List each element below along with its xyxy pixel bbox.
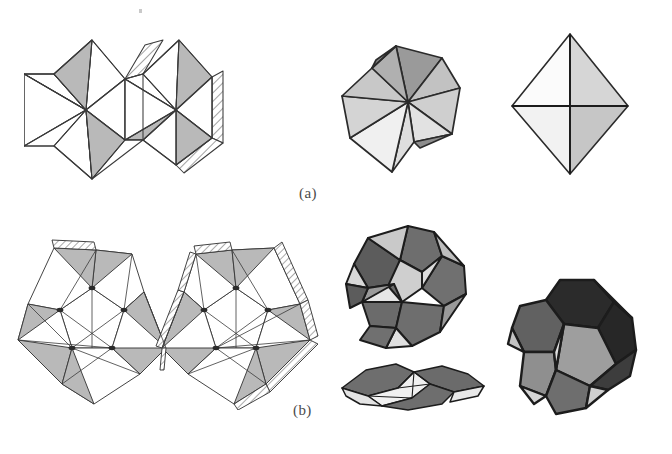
- partial-octahedron: [336, 30, 484, 180]
- panel-label-b: (b): [293, 402, 312, 419]
- solid-octahedron: [506, 28, 636, 180]
- partial-dodecahedron-drawing: [338, 222, 480, 364]
- solid-face: [512, 34, 570, 106]
- net-octahedron-drawing: [24, 18, 296, 188]
- net-dodecahedron-drawing: [14, 228, 324, 410]
- solid-face: [586, 386, 608, 408]
- solid-dodecahedron: [498, 272, 646, 422]
- net-octahedron: [24, 18, 296, 188]
- solid-face: [570, 106, 628, 174]
- glue-tab: [52, 240, 96, 250]
- solid-face: [570, 34, 628, 106]
- collapsed-dodecahedron: [338, 358, 488, 414]
- partial-dodecahedron: [338, 222, 480, 364]
- partial-octahedron-drawing: [336, 30, 484, 180]
- solid-dodecahedron-drawing: [498, 272, 646, 422]
- scan-speck: [139, 9, 142, 13]
- net-dodecahedron: [14, 228, 324, 410]
- solid-face: [512, 106, 570, 174]
- glue-tab: [212, 71, 223, 143]
- panel-label-a: (a): [299, 185, 317, 202]
- collapsed-dodecahedron-drawing: [338, 358, 488, 414]
- solid-octahedron-drawing: [506, 28, 636, 180]
- figure-root: (a): [0, 0, 672, 454]
